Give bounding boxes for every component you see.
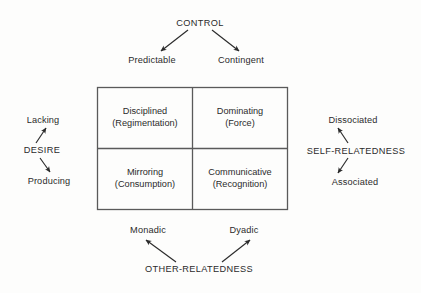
quadrant-name-top-right: Dominating [217,106,263,116]
pole-label-contingent: Contingent [218,55,264,66]
quadrant-qualifier-bottom-right: (Recognition) [195,178,285,190]
quadrant-qualifier-bottom-left: (Consumption) [100,178,190,190]
pole-label-producing: Producing [28,176,71,187]
quadrant-name-top-left: Disciplined [123,106,167,116]
quadrant-cell-top-left: Disciplined (Regimentation) [100,106,190,129]
quadrant-qualifier-top-right: (Force) [195,117,285,129]
arrow-self-relatedness-to-associated [338,158,348,173]
pole-label-dissociated: Dissociated [328,115,377,126]
axis-label-self-relatedness: SELF-RELATEDNESS [307,146,405,157]
quadrant-cell-bottom-left: Mirroring (Consumption) [100,167,190,190]
quadrant-name-bottom-left: Mirroring [127,167,163,177]
axis-label-other-relatedness: OTHER-RELATEDNESS [145,264,253,275]
axis-label-control: CONTROL [176,18,223,29]
other-relatedness-axis-arrows [146,240,250,262]
pole-label-monadic: Monadic [130,225,166,236]
pole-label-associated: Associated [332,177,378,188]
control-axis-arrows [161,30,239,51]
quadrant-qualifier-top-left: (Regimentation) [100,117,190,129]
quadrant-name-bottom-right: Communicative [208,167,271,177]
quadrant-cell-bottom-right: Communicative (Recognition) [195,167,285,190]
pole-label-dyadic: Dyadic [230,225,259,236]
arrow-control-to-contingent [212,30,239,51]
arrow-desire-to-lacking [36,128,46,143]
quadrant-cell-top-right: Dominating (Force) [195,106,285,129]
pole-label-lacking: Lacking [27,115,60,126]
pole-label-predictable: Predictable [128,55,176,66]
arrow-other-relatedness-to-monadic [146,240,176,262]
arrow-self-relatedness-to-dissociated [338,128,348,143]
typology-quadrant-diagram: CONTROL DESIRE SELF-RELATEDNESS OTHER-RE… [0,0,421,293]
axis-label-desire: DESIRE [24,145,60,156]
arrow-control-to-predictable [161,30,188,51]
arrow-desire-to-producing [40,158,50,172]
arrow-other-relatedness-to-dyadic [222,240,250,262]
